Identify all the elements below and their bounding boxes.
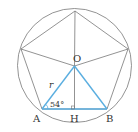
angle-arc bbox=[46, 104, 48, 109]
label-H: H bbox=[70, 113, 79, 124]
label-r: r bbox=[49, 80, 54, 90]
label-O: O bbox=[73, 53, 81, 64]
label-B: B bbox=[106, 113, 113, 124]
pentagon-diagram: O r 54° A H B bbox=[0, 0, 138, 132]
label-A: A bbox=[32, 113, 41, 124]
label-angle: 54° bbox=[50, 100, 64, 109]
